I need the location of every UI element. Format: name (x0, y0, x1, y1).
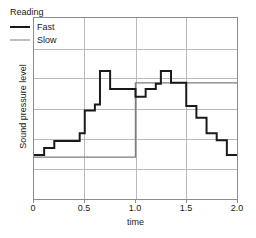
legend-title: Reading (10, 6, 95, 18)
legend-label-slow: Slow (37, 34, 57, 46)
x-tick-label-1p5: 1.5 (180, 203, 193, 214)
legend-swatch-fast-icon (9, 23, 31, 31)
legend-label-fast: Fast (37, 21, 55, 33)
x-tick-label-2p0: 2.0 (231, 203, 244, 214)
x-tick-label-0: 0 (30, 203, 35, 214)
x-tick-labels: 0 0.5 1.0 1.5 2.0 (33, 203, 238, 217)
y-axis-label: Sound pressure level (18, 32, 29, 182)
x-tick-label-1p0: 1.0 (129, 203, 142, 214)
x-axis-label: time (33, 217, 238, 228)
x-tick-label-0p5: 0.5 (78, 203, 91, 214)
chart-figure: Reading Fast Slow 0 0.5 1.0 1.5 2.0 time… (0, 0, 256, 238)
